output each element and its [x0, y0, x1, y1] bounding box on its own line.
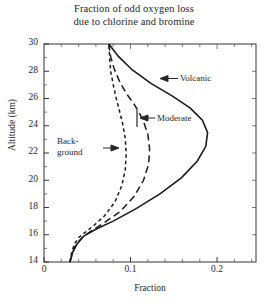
chart-figure: Fraction of odd oxygen loss due to chlor…: [0, 0, 268, 304]
x-axis-label: Fraction: [44, 283, 256, 293]
ytick-label-16: 16: [16, 228, 38, 238]
ytick-label-18: 18: [16, 201, 38, 211]
ytick-label-26: 26: [16, 92, 38, 102]
ytick-label-20: 20: [16, 174, 38, 184]
annotation-background: Back- ground: [57, 136, 83, 157]
annotation-moderate: Moderate: [157, 113, 191, 124]
annotation-background-line-1: Back-: [57, 136, 83, 147]
ytick-label-24: 24: [16, 119, 38, 129]
ytick-label-28: 28: [16, 65, 38, 75]
y-axis-label: Altitude (km): [7, 85, 17, 165]
ytick-label-30: 30: [16, 37, 38, 47]
xtick-label-0-1: 0.1: [116, 264, 146, 274]
ytick-label-22: 22: [16, 146, 38, 156]
plot-area: [0, 0, 268, 304]
annotation-background-line-2: ground: [57, 147, 83, 158]
xtick-label-0: 0: [29, 264, 59, 274]
xtick-label-0-2: 0.2: [202, 264, 232, 274]
annotation-volcanic: Volcanic: [180, 73, 211, 84]
